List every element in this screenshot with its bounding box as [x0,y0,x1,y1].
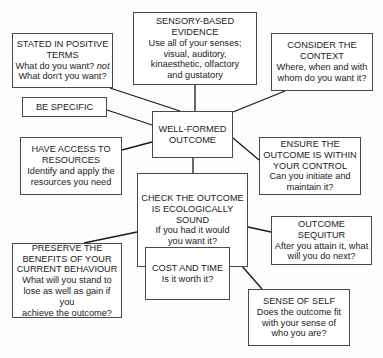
node-title: SENSORY-BASED [156,16,234,27]
node-desc: achieve the outcome? [22,308,112,319]
link-context [233,91,285,112]
node-desc: What don't you want? [18,71,106,82]
node-desc: will you do next? [288,251,356,262]
link-specific [107,110,152,125]
node-title: SENSE OF SELF [263,296,335,307]
node-title: CHECK THE OUTCOME [141,193,243,204]
node-desc: and gustatory [167,70,223,81]
node-title: BENEFITS OF YOUR [22,254,111,265]
link-stated [110,88,180,111]
node-desc: visual, auditory, [163,49,226,60]
node-desc: Where, when and with [277,62,368,73]
center-title: OUTCOME [169,135,216,146]
node-be-specific: BE SPECIFIC [22,97,107,117]
node-title: OUTCOME SEQUITUR [274,219,369,241]
node-title: OUTCOME IS WITHIN [263,150,356,161]
node-desc: Is it worth it? [162,274,214,285]
link-self [241,265,262,289]
node-title: CONSIDER THE [287,40,356,51]
node-desc: whom do you want it? [278,73,367,84]
node-title: HAVE ACCESS TO [31,144,110,155]
node-sensory-evidence: SENSORY-BASED EVIDENCE Use all of your s… [133,12,257,85]
node-cost-time: COST AND TIME Is it worth it? [145,247,230,300]
node-title: YOUR CONTROL [273,161,347,172]
node-title: IS ECOLOGICALLY [152,204,234,215]
node-title: CURRENT BEHAVIOUR [17,264,118,275]
node-desc: Use all of your senses; [149,38,242,49]
link-preserve [84,232,137,243]
node-sense-of-self: SENSE OF SELF Does the outcome fit with … [248,289,350,346]
node-desc: Identify and apply the [27,166,114,177]
node-title: SOUND [176,215,209,226]
emphasis: not [97,61,110,71]
node-desc: If you had it would [155,225,229,236]
node-desc: lose as well as gain if you [15,286,119,308]
node-title: RESOURCES [42,155,100,166]
node-well-formed-outcome: WELL-FORMED OUTCOME [152,111,233,158]
node-within-control: ENSURE THE OUTCOME IS WITHIN YOUR CONTRO… [259,137,361,195]
node-desc: maintain it? [287,182,334,193]
node-preserve-benefits: PRESERVE THE BENEFITS OF YOUR CURRENT BE… [12,243,122,318]
node-desc: who you are? [271,328,326,339]
link-sequitur [248,227,271,232]
node-desc: After you attain it, what [275,241,368,252]
node-title: ENSURE THE [280,139,339,150]
node-desc: What will you stand to [22,275,111,286]
node-desc: Does the outcome fit [257,307,341,318]
node-outcome-sequitur: OUTCOME SEQUITUR After you attain it, wh… [271,216,372,265]
node-title: TERMS [46,50,78,61]
node-desc: you want it? [168,236,217,247]
well-formed-outcome-diagram: STATED IN POSITIVE TERMS What do you wan… [0,0,383,358]
node-desc: kinaesthetic, olfactory [151,59,239,70]
node-title: STATED IN POSITIVE [17,39,109,50]
node-title: PRESERVE THE [32,243,103,254]
link-control [233,138,259,160]
node-desc: resources you need [31,177,112,188]
node-access-resources: HAVE ACCESS TO RESOURCES Identify and ap… [20,137,122,195]
center-title: WELL-FORMED [159,124,227,135]
node-consider-context: CONSIDER THE CONTEXT Where, when and wit… [271,33,373,91]
node-title: COST AND TIME [152,263,223,274]
node-stated-positive: STATED IN POSITIVE TERMS What do you wan… [12,33,113,88]
node-desc: Can you initiate and [269,171,350,182]
node-title: EVIDENCE [172,27,219,38]
node-desc: What do you want? not [16,61,110,72]
node-title: BE SPECIFIC [36,102,93,113]
node-desc: with your sense of [262,318,336,329]
node-title: CONTEXT [300,51,344,62]
link-resources [122,142,152,150]
